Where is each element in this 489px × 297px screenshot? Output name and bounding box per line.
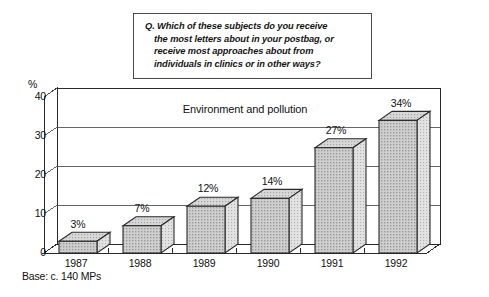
x-tick-1992: 1992 <box>368 257 424 269</box>
bar-1988 <box>123 217 174 253</box>
y-tick-20: 20 <box>22 168 46 180</box>
x-tick-1990: 1990 <box>240 257 296 269</box>
x-tick-1991: 1991 <box>304 257 360 269</box>
bar-1989 <box>187 197 238 253</box>
bar-1987 <box>59 232 110 253</box>
bar-label-1992: 34% <box>376 97 426 109</box>
bar-label-1988: 7% <box>117 202 167 214</box>
bar-label-1989: 12% <box>183 182 233 194</box>
y-tick-0: 0 <box>22 246 46 258</box>
base-note: Base: c. 140 MPs <box>22 270 101 282</box>
y-tick-30: 30 <box>22 129 46 141</box>
bar-1991 <box>315 139 366 253</box>
series-title: Environment and pollution <box>160 103 330 115</box>
bar-chart <box>0 0 489 297</box>
bar-1992 <box>379 111 430 253</box>
x-tick-1987: 1987 <box>48 257 104 269</box>
y-tick-10: 10 <box>22 207 46 219</box>
bar-label-1987: 3% <box>53 218 103 230</box>
x-tick-1988: 1988 <box>112 257 168 269</box>
bar-label-1991: 27% <box>311 124 361 136</box>
y-tick-40: 40 <box>22 90 46 102</box>
x-tick-1989: 1989 <box>176 257 232 269</box>
bar-label-1990: 14% <box>247 175 297 187</box>
y-axis-unit-label: % <box>28 78 37 90</box>
bar-1990 <box>251 189 302 253</box>
